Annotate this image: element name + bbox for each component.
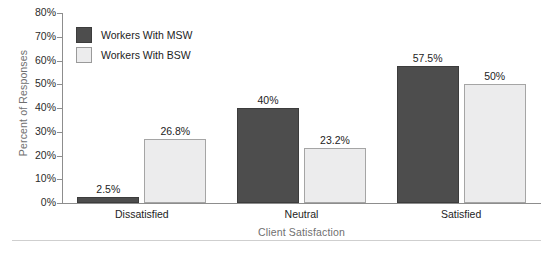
y-axis-tick-label: 10%: [26, 173, 56, 184]
y-axis-tick-label: 50%: [26, 78, 56, 89]
bar-value-label: 26.8%: [160, 125, 190, 137]
y-axis-tick-labels: 80%70%60%50%40%30%20%10%0%: [26, 0, 56, 254]
y-axis-tick-label: 70%: [26, 31, 56, 42]
legend-label-bsw: Workers With BSW: [101, 49, 191, 61]
bar: 57.5%: [397, 66, 459, 203]
bar: 50%: [464, 84, 526, 203]
bar: 26.8%: [144, 139, 206, 203]
bar-value-label: 50%: [484, 70, 505, 82]
bar-value-label: 23.2%: [320, 134, 350, 146]
bar: 23.2%: [304, 148, 366, 203]
legend-item-bsw: Workers With BSW: [76, 45, 192, 65]
bar-value-label: 2.5%: [96, 183, 120, 195]
x-axis-line: [62, 203, 541, 204]
bar: 2.5%: [77, 197, 139, 203]
bar-value-label: 57.5%: [413, 52, 443, 64]
y-axis-tick-label: 60%: [26, 55, 56, 66]
bottom-divider-rule: [12, 240, 541, 241]
x-axis-tick-label: Satisfied: [401, 208, 521, 221]
x-axis-tick-label: Dissatisfied: [82, 208, 202, 221]
y-axis-tick-label: 0%: [26, 197, 56, 208]
y-axis-tick-label: 80%: [26, 7, 56, 18]
legend-item-msw: Workers With MSW: [76, 25, 192, 45]
bar-value-label: 40%: [257, 94, 278, 106]
x-axis-title: Client Satisfaction: [62, 226, 541, 238]
legend-swatch-msw-icon: [76, 27, 92, 43]
y-axis-tick-label: 30%: [26, 126, 56, 137]
y-axis-tick-label: 20%: [26, 150, 56, 161]
bar: 40%: [237, 108, 299, 203]
x-axis-tick-label: Neutral: [242, 208, 362, 221]
bar-chart-figure: Percent of Responses 80%70%60%50%40%30%2…: [0, 0, 553, 254]
legend-swatch-bsw-icon: [76, 47, 92, 63]
chart-legend: Workers With MSW Workers With BSW: [76, 25, 192, 65]
y-axis-tick-label: 40%: [26, 102, 56, 113]
legend-label-msw: Workers With MSW: [101, 29, 192, 41]
